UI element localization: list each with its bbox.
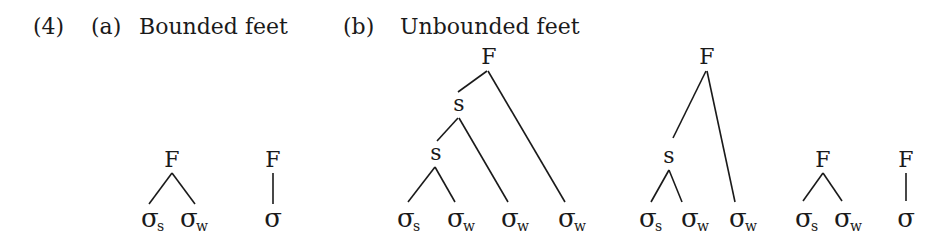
strong-node: s [663, 143, 674, 168]
foot-node: F [265, 147, 280, 172]
syllable-weak: σ w [180, 203, 208, 234]
strong-node: s [453, 91, 464, 116]
foot-structure-diagram: (4) (a) Bounded feet (b) Unbounded feet … [0, 0, 947, 239]
example-number: (4) [33, 14, 64, 39]
tree-edge [408, 167, 435, 202]
tree-edge [823, 173, 842, 201]
syllable-weak: σ w [681, 203, 709, 234]
svg-text:s: s [655, 218, 662, 234]
tree-edge [707, 71, 735, 202]
panel-a-title: Bounded feet [139, 14, 288, 39]
tree-edge [669, 170, 682, 202]
syllable: σ [264, 203, 282, 233]
foot-node: F [815, 147, 830, 172]
tree-edge [435, 167, 455, 202]
tree-b-left-branching-3: F s σ s σ w σ w [639, 44, 757, 234]
svg-text:w: w [574, 218, 586, 234]
panel-b-label: (b) [343, 14, 374, 39]
tree-edge [673, 71, 706, 138]
tree-b-unary: F σ [897, 147, 915, 233]
svg-text:s: s [811, 218, 818, 234]
tree-edge [459, 118, 508, 202]
syllable-weak: σ w [729, 203, 757, 234]
tree-a-unary: F σ [264, 147, 282, 233]
tree-edge [651, 170, 669, 202]
tree-edge [149, 173, 172, 204]
svg-text:w: w [196, 218, 208, 234]
syllable: σ [897, 203, 915, 233]
svg-text:s: s [413, 218, 420, 234]
svg-text:w: w [745, 218, 757, 234]
syllable-strong: σ s [397, 203, 420, 234]
foot-node: F [898, 147, 913, 172]
tree-edge [458, 71, 487, 92]
tree-edge [803, 173, 823, 201]
tree-b-binary: F σ s σ w [795, 147, 862, 234]
syllable-weak: σ w [558, 203, 586, 234]
svg-text:w: w [850, 218, 862, 234]
tree-edge [437, 118, 458, 141]
syllable-weak: σ w [447, 203, 475, 234]
tree-b-left-branching-4: F s s σ s σ w σ w σ w [397, 44, 586, 234]
foot-node: F [164, 147, 179, 172]
svg-text:w: w [517, 218, 529, 234]
syllable-weak: σ w [834, 203, 862, 234]
panel-b-title: Unbounded feet [400, 14, 580, 39]
foot-node: F [481, 44, 496, 69]
tree-edge [488, 71, 565, 202]
header: (4) (a) Bounded feet (b) Unbounded feet [33, 14, 580, 39]
panel-a-label: (a) [91, 14, 121, 39]
syllable-weak: σ w [501, 203, 529, 234]
tree-a-binary: F σ s σ w [141, 147, 208, 234]
tree-edge [172, 173, 195, 204]
syllable-strong: σ s [141, 203, 164, 234]
syllable-strong: σ s [639, 203, 662, 234]
foot-node: F [699, 44, 714, 69]
strong-node: s [430, 140, 441, 165]
syllable-strong: σ s [795, 203, 818, 234]
svg-text:s: s [157, 218, 164, 234]
svg-text:w: w [463, 218, 475, 234]
svg-text:w: w [697, 218, 709, 234]
